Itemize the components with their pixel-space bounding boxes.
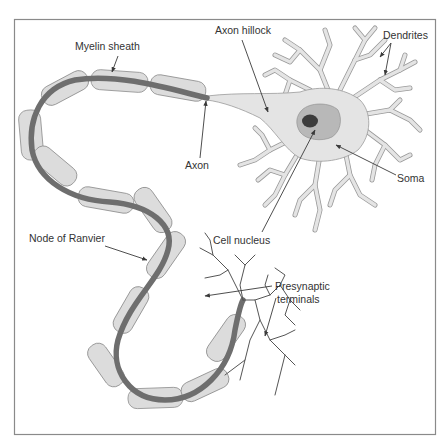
arrow-node-of-ranvier <box>105 246 147 260</box>
label-cell-nucleus: Cell nucleus <box>213 234 270 246</box>
arrow-presynaptic-1 <box>205 286 272 296</box>
nucleolus <box>302 115 318 128</box>
neuron-diagram: Myelin sheath Axon hillock Dendrites Axo… <box>0 0 448 445</box>
label-axon-hillock: Axon hillock <box>215 24 272 36</box>
arrow-dendrites-2 <box>385 43 391 75</box>
label-presynaptic-line1: Presynaptic <box>275 280 330 292</box>
arrow-myelin-sheath <box>112 56 118 72</box>
label-presynaptic-line2: terminals <box>277 293 320 305</box>
label-myelin-sheath: Myelin sheath <box>75 40 140 52</box>
label-dendrites: Dendrites <box>383 29 428 41</box>
soma <box>207 88 369 161</box>
label-node-of-ranvier: Node of Ranvier <box>29 232 105 244</box>
label-axon: Axon <box>185 159 209 171</box>
arrow-axon <box>200 101 206 158</box>
arrow-presynaptic-2 <box>265 298 276 336</box>
label-soma: Soma <box>397 172 425 184</box>
